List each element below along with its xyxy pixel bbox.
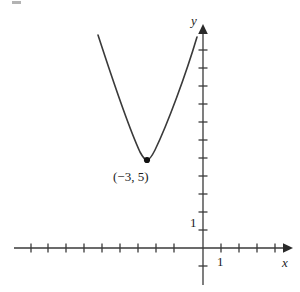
x-axis-arrowhead <box>283 243 293 253</box>
graph-figure: y x 1 1 (−3, 5) <box>0 0 300 292</box>
y-axis-arrowhead <box>198 24 208 34</box>
x-axis-label: x <box>282 256 288 269</box>
x-axis-unit-tick-label: 1 <box>217 255 224 268</box>
coordinate-plane <box>0 0 300 292</box>
vertex-point-label: (−3, 5) <box>113 170 149 183</box>
parabola-curve <box>98 35 197 160</box>
y-axis-label: y <box>191 14 197 27</box>
vertex-point-marker <box>144 157 150 163</box>
y-axis-unit-tick-label: 1 <box>190 216 197 229</box>
